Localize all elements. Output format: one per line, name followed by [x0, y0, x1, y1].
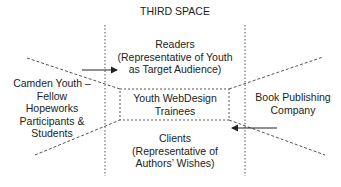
youth-webdesign-trainees-node: Youth WebDesign Trainees [120, 92, 230, 117]
readers-node: Readers (Representative of Youth as Targ… [105, 38, 245, 76]
camden-youth-node: Camden Youth – Fellow Hopeworks Particip… [0, 77, 104, 140]
diagram-title: THIRD SPACE [120, 5, 230, 18]
book-publishing-company-node: Book Publishing Company [245, 91, 341, 116]
clients-node: Clients (Representative of Authors’ Wish… [105, 132, 245, 170]
